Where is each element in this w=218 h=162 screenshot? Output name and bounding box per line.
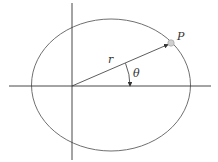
angle-label: θ xyxy=(133,67,140,80)
point-p-marker xyxy=(168,40,174,46)
polar-ellipse-diagram: P r θ xyxy=(0,0,218,162)
ellipse-curve xyxy=(32,19,191,151)
point-p-label: P xyxy=(176,30,185,43)
radius-label: r xyxy=(108,53,114,66)
angle-arc xyxy=(126,63,131,86)
radius-vector xyxy=(72,45,168,87)
